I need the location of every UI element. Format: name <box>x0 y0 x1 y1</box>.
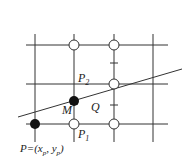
grid <box>26 34 168 142</box>
label-p1: P1 <box>77 127 89 143</box>
filled-pixel-p <box>30 119 40 129</box>
open-pixel <box>109 79 119 89</box>
label-q: Q <box>91 100 100 114</box>
open-pixel <box>69 40 79 50</box>
label-p2: P2 <box>77 71 89 87</box>
midpoint-diagram: P2 M Q P1 P=(xp, yp) <box>0 0 195 163</box>
label-p: P=(xp, yp) <box>19 142 64 157</box>
open-pixel <box>109 119 119 129</box>
ideal-line <box>18 69 182 117</box>
open-pixel <box>109 40 119 50</box>
label-m: M <box>61 103 73 117</box>
